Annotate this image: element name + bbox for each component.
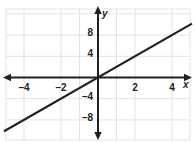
y-tick-label-neg8: –8 bbox=[74, 112, 93, 123]
y-tick-label-8: 8 bbox=[79, 27, 93, 38]
graph-figure: 8 4 –4 –8 –4 –2 2 4 y x bbox=[0, 0, 195, 142]
y-axis-label: y bbox=[102, 8, 108, 19]
coordinate-plane-svg bbox=[0, 0, 195, 142]
x-tick-label-neg4: –4 bbox=[14, 82, 34, 93]
x-axis-label: x bbox=[183, 79, 189, 90]
x-tick-label-neg2: –2 bbox=[51, 82, 71, 93]
y-tick-label-neg4: –4 bbox=[74, 91, 93, 102]
y-tick-label-4: 4 bbox=[79, 48, 93, 59]
x-tick-label-4: 4 bbox=[166, 82, 178, 93]
x-tick-label-2: 2 bbox=[129, 82, 141, 93]
